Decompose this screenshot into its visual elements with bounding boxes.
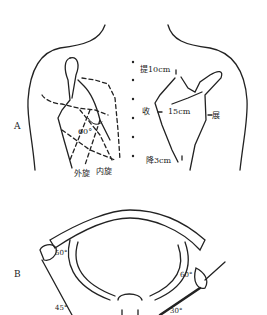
left-angle-label: 60° [78, 128, 92, 136]
angle-30-label: 30° [170, 308, 182, 315]
panel-b-label: B [14, 270, 21, 279]
angle-60-label: 60° [180, 272, 192, 279]
internal-rotation-label: 内旋 [96, 168, 112, 176]
distance-label: 15cm [168, 108, 190, 116]
depression-label: 降3cm [146, 157, 171, 165]
left-scapula-rotated [42, 78, 120, 165]
external-rotation-label: 外旋 [74, 170, 90, 178]
abduction-label: 展 [212, 112, 220, 120]
elevation-label: 提10cm [140, 66, 170, 74]
left-scapula [58, 58, 72, 168]
anatomy-diagram [0, 0, 267, 315]
midline-dots [132, 61, 134, 157]
angle-45-label: 45° [55, 305, 67, 312]
panel-a-label: A [14, 122, 21, 131]
angle-50-label: 50° [55, 250, 67, 257]
adduction-label: 收 [142, 108, 150, 116]
thorax-cross-section [40, 210, 225, 315]
right-scapula [155, 78, 178, 162]
